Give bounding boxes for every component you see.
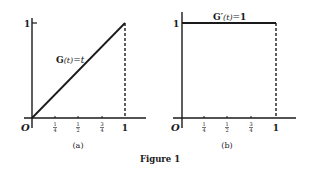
panel-label-a: (a) <box>72 141 83 150</box>
x-tick-label: 1 <box>122 123 128 133</box>
annotation-g-prime: G′(t)=1 <box>213 12 246 22</box>
annotation-g: G(t)=t <box>56 55 85 65</box>
x-tick-label-den: 4 <box>100 127 103 133</box>
origin-label: O <box>21 122 30 133</box>
x-tick-label-den: 4 <box>202 127 205 133</box>
x-tick-label-den: 4 <box>249 127 252 133</box>
origin-label: O <box>171 122 180 133</box>
series-line-g <box>32 23 125 118</box>
figure-canvas: 1 O 1 4 1 2 3 4 1 G(t)=t (a) 1 O 1 4 1 <box>0 0 321 171</box>
x-tick-label-den: 2 <box>225 127 228 133</box>
y-tick-label: 1 <box>173 19 179 29</box>
panel-label-b: (b) <box>221 141 232 150</box>
panel-a: 1 O 1 4 1 2 3 4 1 G(t)=t (a) <box>21 18 146 150</box>
figure-caption: Figure 1 <box>140 154 180 164</box>
panel-b: 1 O 1 4 1 2 3 4 1 G′(t)=1 (b) <box>171 12 296 150</box>
y-tick-label: 1 <box>24 19 30 29</box>
x-tick-label-den: 2 <box>76 127 79 133</box>
x-tick-label: 1 <box>273 123 279 133</box>
x-tick-label-den: 4 <box>53 127 56 133</box>
